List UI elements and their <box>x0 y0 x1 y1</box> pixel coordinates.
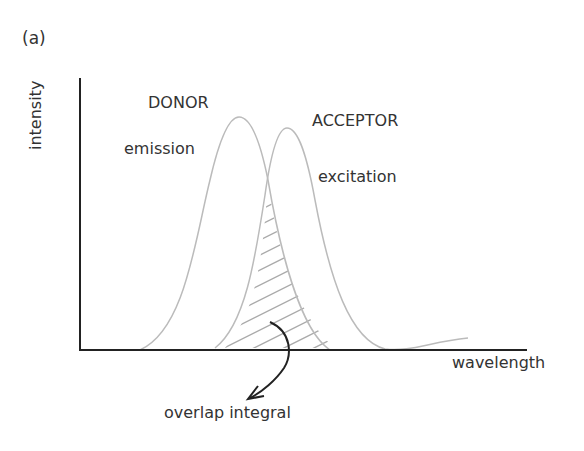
donor-title: DONOR <box>148 93 209 112</box>
y-axis-label: intensity <box>26 81 45 150</box>
overlap-label: overlap integral <box>164 403 291 422</box>
acceptor-curve <box>215 128 468 350</box>
acceptor-subtitle: excitation <box>318 167 397 186</box>
donor-subtitle: emission <box>124 139 195 158</box>
acceptor-title: ACCEPTOR <box>312 111 398 130</box>
fret-diagram <box>0 0 584 451</box>
x-axis-label: wavelength <box>452 353 545 372</box>
panel-label: (a) <box>22 28 46 48</box>
arrow-icon <box>250 322 289 398</box>
